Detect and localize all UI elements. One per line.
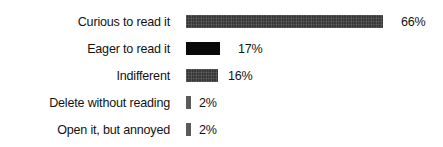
bar-value-label: 16% — [228, 68, 253, 83]
bar-zone: 66% — [186, 14, 427, 29]
category-label: Eager to read it — [12, 41, 170, 56]
category-label: Delete without reading — [12, 95, 170, 110]
chart-row: Open it, but annoyed 2% — [0, 116, 443, 143]
bar-zone: 17% — [186, 41, 264, 56]
bar-value-label: 2% — [199, 122, 217, 137]
bar-value-label: 66% — [401, 14, 426, 29]
bar-zone: 2% — [186, 95, 218, 110]
bar-value-label: 2% — [199, 95, 217, 110]
chart-row: Delete without reading 2% — [0, 89, 443, 116]
bar — [186, 123, 191, 136]
bar — [186, 96, 191, 109]
category-label: Indifferent — [12, 68, 170, 83]
chart-row: Indifferent 16% — [0, 62, 443, 89]
horizontal-bar-chart: Curious to read it 66% Eager to read it … — [0, 0, 443, 147]
bar-value-label: 17% — [238, 41, 263, 56]
bar — [186, 69, 218, 82]
bar-zone: 16% — [186, 68, 254, 83]
chart-row: Curious to read it 66% — [0, 8, 443, 35]
category-label: Curious to read it — [12, 14, 170, 29]
bar — [186, 42, 220, 55]
bar — [186, 15, 383, 28]
category-label: Open it, but annoyed — [12, 122, 170, 137]
bar-zone: 2% — [186, 122, 218, 137]
chart-row: Eager to read it 17% — [0, 35, 443, 62]
